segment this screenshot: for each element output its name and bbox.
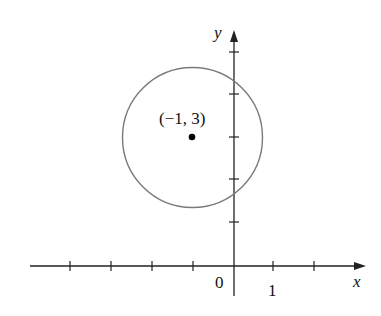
y-axis-label: y xyxy=(214,24,222,41)
y-axis-arrow-icon xyxy=(230,30,238,42)
x-axis-label: x xyxy=(353,273,361,290)
x-tick-label-1: 1 xyxy=(268,282,277,299)
x-axis-arrow-icon xyxy=(354,262,366,270)
coordinate-plane-figure: y x 0 1 (−1, 3) xyxy=(0,0,381,316)
plot-canvas xyxy=(0,0,381,316)
origin-label: 0 xyxy=(215,274,224,291)
center-point-label: (−1, 3) xyxy=(159,110,205,127)
center-point xyxy=(189,134,196,141)
